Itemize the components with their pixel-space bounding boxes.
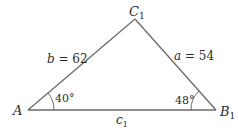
angle-label-b1: 48° (175, 94, 195, 107)
angle-arc-a (48, 93, 54, 110)
angle-label-a: 40° (55, 92, 75, 105)
vertex-label-b1: B1 (219, 104, 235, 121)
triangle-diagram: C1 A B1 b = 62 a = 54 c1 40° 48° (0, 0, 238, 128)
side-label-c1: c1 (116, 113, 128, 128)
side-label-a: a = 54 (174, 49, 214, 63)
vertex-label-a: A (12, 103, 22, 118)
vertex-label-c1: C1 (129, 4, 145, 21)
side-label-b: b = 62 (47, 52, 88, 66)
